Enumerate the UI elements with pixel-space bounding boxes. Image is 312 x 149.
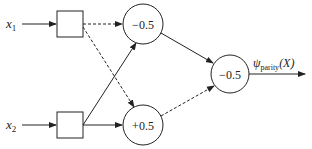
hidden-node-2-threshold: +0.5: [132, 119, 154, 133]
input-label-x2: x2: [5, 117, 16, 134]
input-box-1: [57, 11, 83, 37]
parity-network-diagram: x1 x2 −0.5 +0.5 −0.5 ψparity(X): [0, 0, 312, 149]
edge-h2-to-out-dashed: [161, 86, 214, 116]
output-node-threshold: −0.5: [219, 68, 241, 82]
input-label-x1: x1: [5, 16, 16, 33]
hidden-node-1-threshold: −0.5: [132, 18, 154, 32]
output-label: ψparity(X): [253, 56, 294, 72]
edge-h1-to-out-solid: [161, 33, 213, 63]
edge-x1-to-h2-dashed: [83, 27, 134, 107]
input-box-2: [57, 112, 83, 138]
